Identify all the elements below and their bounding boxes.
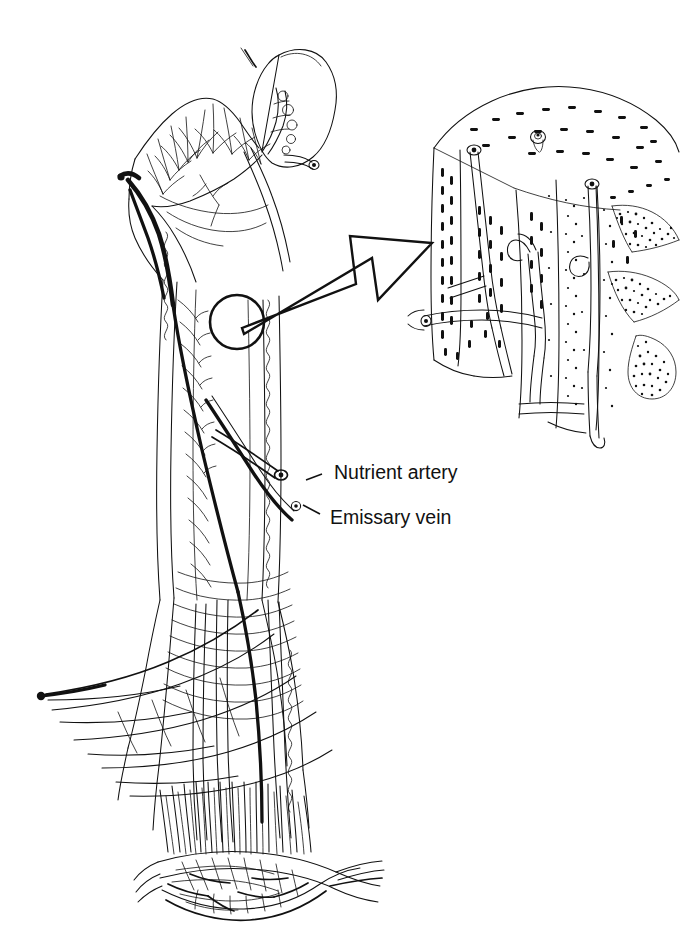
nutrient-artery-label: Nutrient artery <box>334 461 458 483</box>
femur-blood-supply-figure: Nutrient artery Emissary vein <box>0 0 689 936</box>
figure-root: Nutrient artery Emissary vein <box>0 0 689 936</box>
emissary-vein-label: Emissary vein <box>330 506 451 528</box>
